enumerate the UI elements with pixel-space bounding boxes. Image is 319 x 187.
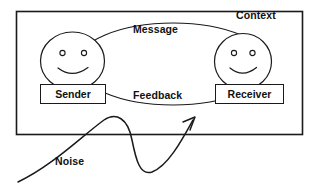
- sender-face-icon: [41, 32, 105, 90]
- message-label: Message: [133, 24, 178, 35]
- feedback-label: Feedback: [133, 90, 182, 101]
- sender-node-label: Sender: [55, 88, 91, 100]
- sender-node: Sender: [40, 84, 106, 104]
- receiver-node-label: Receiver: [228, 88, 272, 100]
- receiver-face-icon: [215, 34, 272, 90]
- noise-label: Noise: [55, 156, 84, 167]
- receiver-node: Receiver: [215, 84, 284, 104]
- communication-model-diagram: Context Message Feedback Noise Sender Re…: [0, 0, 319, 187]
- context-label: Context: [236, 10, 276, 21]
